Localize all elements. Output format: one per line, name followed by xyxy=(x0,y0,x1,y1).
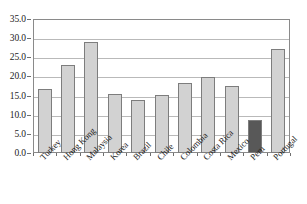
y-tick-label: 25.0 xyxy=(10,52,26,62)
y-tick-mark xyxy=(27,134,31,135)
bars-layer xyxy=(33,19,290,153)
y-tick-label: 20.0 xyxy=(10,71,26,81)
y-tick-mark xyxy=(27,19,31,20)
bar-chart: 35.030.025.020.015.010.05.00.0 TurkeyHon… xyxy=(0,0,307,204)
y-tick-label: 10.0 xyxy=(10,110,26,120)
y-axis: 35.030.025.020.015.010.05.00.0 xyxy=(0,19,31,153)
y-tick-mark xyxy=(27,96,31,97)
y-tick-label: 15.0 xyxy=(10,91,26,101)
y-tick-mark xyxy=(27,76,31,77)
y-tick-label: 30.0 xyxy=(10,33,26,43)
y-tick-mark xyxy=(27,115,31,116)
y-tick-label: 5.0 xyxy=(14,129,26,139)
x-axis: TurkeyHong KongMalaysiaKoreaBrazilChileC… xyxy=(0,155,307,204)
bar-portugal xyxy=(271,49,285,153)
y-tick-mark xyxy=(27,57,31,58)
y-tick-label: 35.0 xyxy=(10,14,26,24)
y-tick-mark xyxy=(27,153,31,154)
bar-hong-kong xyxy=(61,65,75,153)
y-tick-mark xyxy=(27,38,31,39)
